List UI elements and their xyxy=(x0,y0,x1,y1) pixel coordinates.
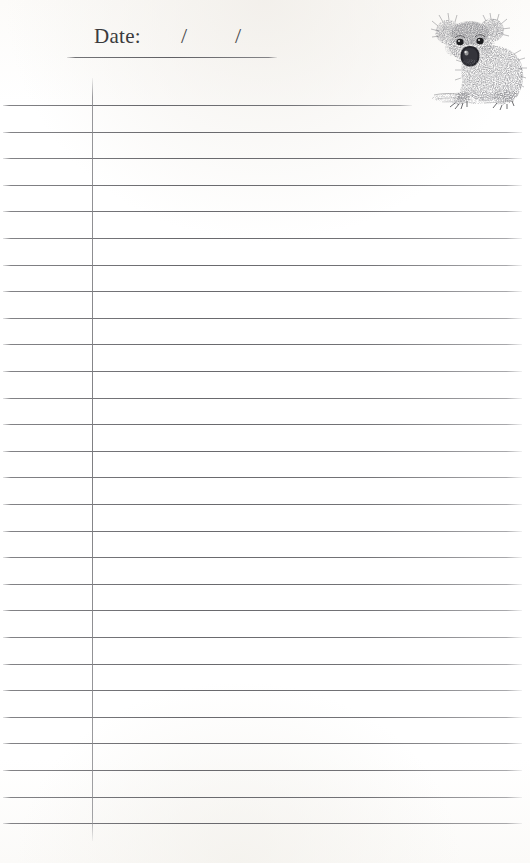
ruled-line xyxy=(3,637,522,638)
date-underline xyxy=(67,57,277,58)
ruled-lines-group xyxy=(0,0,530,863)
ruled-line xyxy=(3,504,522,505)
ruled-line xyxy=(3,105,412,106)
ruled-line xyxy=(3,717,522,718)
ruled-line xyxy=(3,477,522,478)
ruled-line xyxy=(3,211,522,212)
ruled-line xyxy=(3,424,522,425)
date-separator-slash-1: / xyxy=(181,23,187,49)
date-separator-slash-2: / xyxy=(235,23,241,49)
ruled-line xyxy=(3,451,522,452)
koala-rear-paw xyxy=(493,90,515,110)
ruled-line xyxy=(3,584,522,585)
ruled-line xyxy=(3,265,522,266)
ruled-line xyxy=(3,557,522,558)
koala-illustration xyxy=(426,2,528,110)
ruled-line xyxy=(3,531,522,532)
ruled-line xyxy=(3,238,522,239)
ruled-line xyxy=(3,158,522,159)
ruled-line xyxy=(3,823,522,824)
ruled-line xyxy=(3,398,522,399)
koala-muzzle xyxy=(461,59,479,67)
ruled-line xyxy=(3,690,522,691)
paper-texture xyxy=(0,0,530,863)
ruled-line xyxy=(3,743,522,744)
ruled-line xyxy=(3,610,522,611)
ruled-line xyxy=(3,664,522,665)
ruled-line xyxy=(3,291,522,292)
ruled-line xyxy=(3,371,522,372)
ruled-line xyxy=(3,797,522,798)
date-row: Date: / / xyxy=(67,24,279,56)
ruled-line xyxy=(3,318,522,319)
ruled-line xyxy=(3,344,522,345)
ruled-line xyxy=(3,770,522,771)
date-label: Date: xyxy=(94,24,141,49)
notepad-page: Date: / / xyxy=(0,0,530,863)
ruled-line xyxy=(3,132,522,133)
margin-rule-vertical xyxy=(92,78,93,841)
date-field-block[interactable]: Date: / / xyxy=(67,24,279,68)
ruled-line xyxy=(3,185,522,186)
